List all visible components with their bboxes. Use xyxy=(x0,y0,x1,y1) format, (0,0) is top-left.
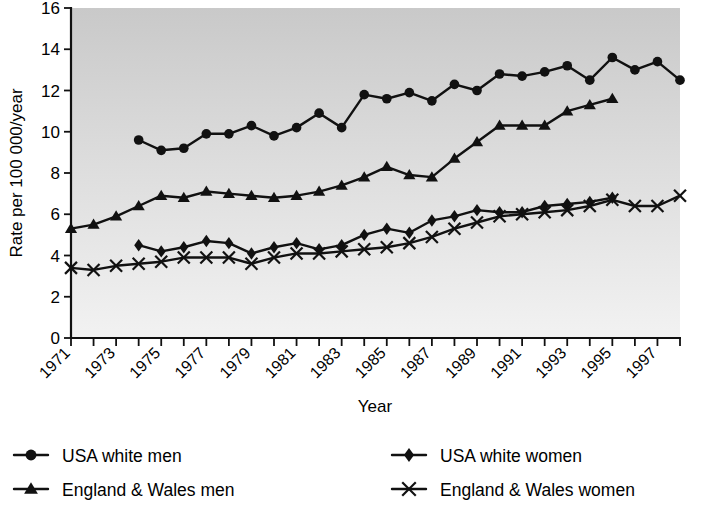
x-tick-label: 1983 xyxy=(307,344,344,381)
marker-circle xyxy=(26,450,37,461)
x-tick-label: 1993 xyxy=(532,344,569,381)
marker-circle xyxy=(495,69,505,79)
marker-circle xyxy=(540,67,550,77)
y-tick-label: 10 xyxy=(41,123,60,142)
marker-diamond xyxy=(404,448,414,462)
marker-circle xyxy=(450,79,460,89)
marker-circle xyxy=(337,123,347,133)
y-axis-title: Rate per 100 000/year xyxy=(7,88,26,258)
legend-label: USA white women xyxy=(440,446,582,466)
marker-circle xyxy=(179,143,189,153)
marker-circle xyxy=(585,75,595,85)
x-tick-label: 1997 xyxy=(622,344,659,381)
y-tick-label: 8 xyxy=(51,164,60,183)
marker-circle xyxy=(472,86,482,96)
y-tick-label: 0 xyxy=(51,329,60,348)
legend-item-england-wales-men[interactable]: England & Wales men xyxy=(14,480,235,500)
y-tick-label: 4 xyxy=(51,247,60,266)
x-tick-label: 1977 xyxy=(171,344,208,381)
marker-circle xyxy=(562,61,572,71)
x-tick-label: 1995 xyxy=(577,344,614,381)
x-axis: 1971197319751977197919811983198519871989… xyxy=(36,338,681,381)
y-tick-label: 16 xyxy=(41,0,60,18)
marker-circle xyxy=(224,129,234,139)
x-tick-label: 1971 xyxy=(36,344,73,381)
marker-circle xyxy=(608,53,618,63)
marker-circle xyxy=(653,57,663,67)
legend-label: USA white men xyxy=(62,446,182,466)
x-tick-label: 1989 xyxy=(442,344,479,381)
legend-label: England & Wales men xyxy=(62,480,235,500)
y-tick-label: 12 xyxy=(41,82,60,101)
marker-circle xyxy=(247,121,257,131)
marker-circle xyxy=(134,135,144,145)
x-tick-label: 1981 xyxy=(261,344,298,381)
marker-circle xyxy=(382,94,392,104)
y-tick-label: 14 xyxy=(41,40,60,59)
marker-circle xyxy=(269,131,279,141)
marker-circle xyxy=(517,71,527,81)
legend-item-usa-white-women[interactable]: USA white women xyxy=(392,446,582,466)
marker-circle xyxy=(314,108,324,118)
marker-circle xyxy=(405,88,415,98)
legend-item-england-wales-women[interactable]: England & Wales women xyxy=(392,480,635,500)
marker-circle xyxy=(359,90,369,100)
y-tick-label: 6 xyxy=(51,205,60,224)
chart-legend: USA white menUSA white womenEngland & Wa… xyxy=(14,446,635,500)
marker-circle xyxy=(156,145,166,155)
x-tick-label: 1973 xyxy=(81,344,118,381)
x-tick-label: 1985 xyxy=(352,344,389,381)
marker-circle xyxy=(427,96,437,106)
y-axis: 0246810121416 xyxy=(41,0,71,348)
marker-circle xyxy=(202,129,212,139)
x-tick-label: 1975 xyxy=(126,344,163,381)
marker-circle xyxy=(675,75,685,85)
legend-label: England & Wales women xyxy=(440,480,635,500)
legend-item-usa-white-men[interactable]: USA white men xyxy=(14,446,182,466)
line-chart: 0246810121416 19711973197519771979198119… xyxy=(0,0,702,506)
marker-circle xyxy=(630,65,640,75)
x-tick-label: 1979 xyxy=(216,344,253,381)
chart-figure: 0246810121416 19711973197519771979198119… xyxy=(0,0,702,506)
y-tick-label: 2 xyxy=(51,288,60,307)
x-axis-title: Year xyxy=(358,397,393,416)
x-tick-label: 1991 xyxy=(487,344,524,381)
marker-circle xyxy=(292,123,302,133)
x-tick-label: 1987 xyxy=(397,344,434,381)
